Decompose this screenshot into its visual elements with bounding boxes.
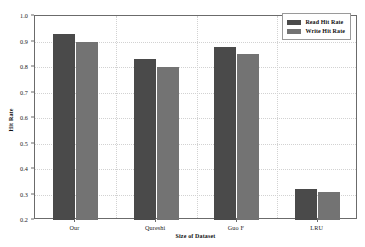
bar-chart-figure: 1.00.90.80.70.60.50.40.30.2 Hit Rate Rea… xyxy=(0,0,365,247)
x-tick-label: Qureshi xyxy=(145,224,165,231)
y-tick-label: 1.0 xyxy=(20,12,28,19)
x-tick-label: LRU xyxy=(310,224,323,231)
bar xyxy=(53,34,75,220)
x-tick-mark xyxy=(317,219,318,222)
y-tick-label: 0.4 xyxy=(20,165,28,172)
bar xyxy=(76,42,98,221)
x-tick-mark xyxy=(155,219,156,222)
x-tick-label: Our xyxy=(69,224,79,231)
y-tick-label: 0.8 xyxy=(20,63,28,70)
x-tick-mark xyxy=(74,219,75,222)
x-tick-label: Guo F xyxy=(228,224,244,231)
legend-swatch xyxy=(287,20,301,25)
y-tick-label: 0.3 xyxy=(20,190,28,197)
legend-item: Write Hit Rate xyxy=(287,27,345,35)
legend-item: Read Hit Rate xyxy=(287,18,345,26)
y-tick-label: 0.6 xyxy=(20,114,28,121)
y-tick-label: 0.2 xyxy=(20,216,28,223)
x-axis-title: Size of Dataset xyxy=(34,233,357,239)
legend-label: Read Hit Rate xyxy=(305,19,343,25)
legend-label: Write Hit Rate xyxy=(305,28,345,34)
bar xyxy=(157,67,179,220)
bar xyxy=(318,192,340,220)
y-tick-label: 0.9 xyxy=(20,37,28,44)
bar xyxy=(237,54,259,220)
bar xyxy=(134,59,156,220)
legend-swatch xyxy=(287,29,301,34)
x-tick-mark xyxy=(236,219,237,222)
plot-area: Read Hit RateWrite Hit Rate xyxy=(34,15,357,219)
y-tick-label: 0.7 xyxy=(20,88,28,95)
bar-series-container xyxy=(35,16,356,218)
bar xyxy=(295,189,317,220)
bar xyxy=(214,47,236,220)
y-tick-label: 0.5 xyxy=(20,139,28,146)
y-axis-title: Hit Rate xyxy=(8,90,14,150)
legend: Read Hit RateWrite Hit Rate xyxy=(282,13,351,40)
x-axis: OurQureshiGuo FLRU xyxy=(34,219,357,233)
y-axis: 1.00.90.80.70.60.50.40.30.2 xyxy=(0,15,34,219)
